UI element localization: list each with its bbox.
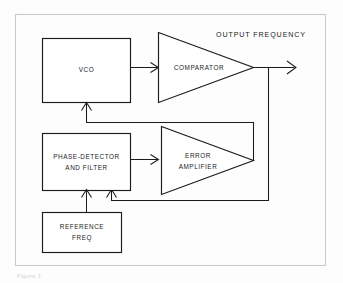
output-frequency-label: OUTPUT FREQUENCY: [216, 31, 306, 39]
block-phase-detector: PHASE-DETECTOR AND FILTER: [43, 134, 131, 191]
phase-detector-label-line2: AND FILTER: [65, 164, 107, 171]
error-amplifier-label-line1: ERROR: [185, 152, 211, 159]
wire-vco-to-comparator: [131, 63, 159, 73]
phase-detector-box: [43, 134, 131, 191]
error-amplifier-label-line2: AMPLIFIER: [179, 163, 218, 170]
figure-canvas: VCO COMPARATOR OUTPUT FREQUENCY PHASE-DE…: [0, 0, 343, 283]
error-amplifier-triangle: [162, 127, 254, 195]
vco-label: VCO: [79, 66, 95, 73]
block-error-amplifier: ERROR AMPLIFIER: [162, 127, 254, 195]
reference-freq-box: [43, 213, 122, 253]
wire-phase-detector-to-error-amplifier: [131, 155, 159, 165]
wire-comparator-output: [254, 61, 297, 74]
figure-caption: Figure 1: [17, 273, 42, 279]
phase-detector-label-line1: PHASE-DETECTOR: [53, 153, 120, 160]
block-vco: VCO: [43, 39, 131, 103]
comparator-label: COMPARATOR: [174, 64, 224, 71]
reference-freq-label-line2: FREQ: [72, 234, 92, 242]
block-comparator: COMPARATOR: [159, 33, 254, 103]
block-diagram: VCO COMPARATOR OUTPUT FREQUENCY PHASE-DE…: [0, 0, 343, 283]
reference-freq-label-line1: REFERENCE: [60, 223, 104, 230]
block-reference-freq: REFERENCE FREQ: [43, 213, 122, 253]
wire-reference-to-phase-detector: [82, 190, 92, 213]
